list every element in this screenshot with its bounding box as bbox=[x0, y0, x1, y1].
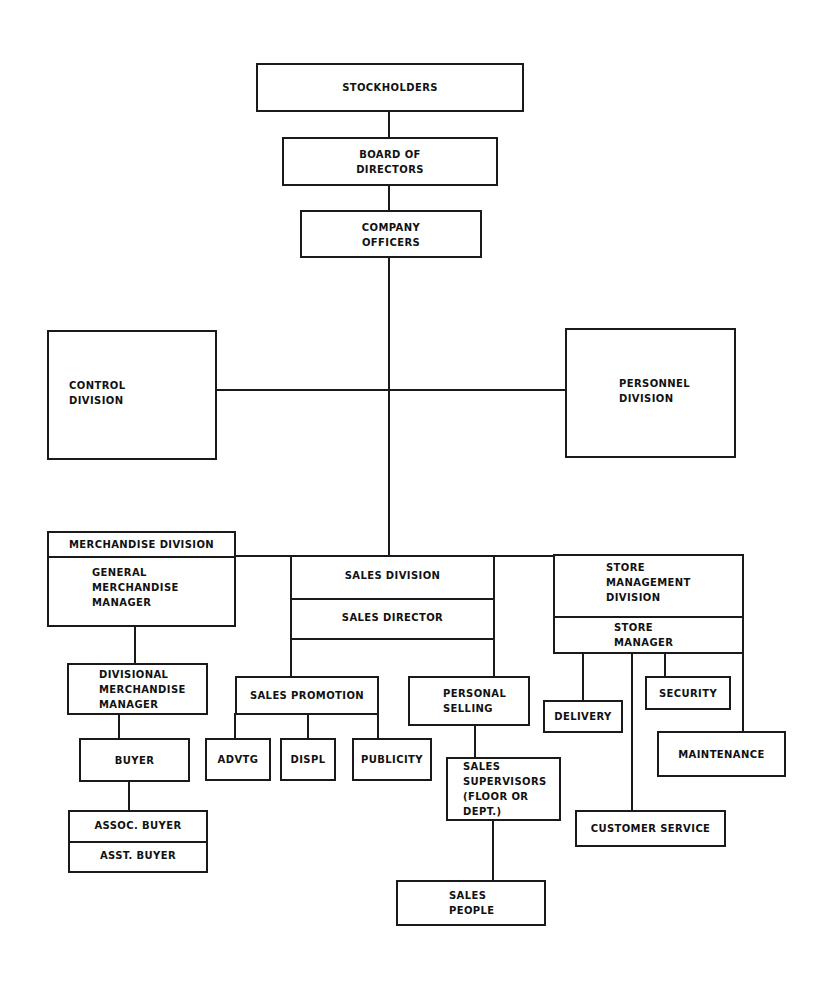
connector bbox=[388, 257, 390, 556]
node-buyer: BUYER bbox=[79, 738, 190, 782]
node-sales-people: SALES PEOPLE bbox=[396, 880, 546, 926]
node-label: MAINTENANCE bbox=[659, 747, 784, 762]
node-publicity: PUBLICITY bbox=[352, 738, 432, 781]
node-store-management-division: STORE MANAGEMENT DIVISION STORE MANAGER bbox=[553, 554, 744, 654]
connector bbox=[582, 652, 584, 701]
connector bbox=[290, 638, 292, 677]
connector bbox=[474, 724, 476, 758]
node-label: SALES SUPERVISORS (FLOOR OR DEPT.) bbox=[463, 759, 547, 819]
node-label: STOCKHOLDERS bbox=[258, 80, 522, 95]
connector bbox=[118, 714, 120, 739]
node-label: ADVTG bbox=[207, 752, 269, 767]
node-label: BOARD OF DIRECTORS bbox=[284, 147, 496, 177]
connector bbox=[388, 185, 390, 210]
node-sales-promotion: SALES PROMOTION bbox=[235, 676, 379, 715]
node-merchandise-division: MERCHANDISE DIVISION GENERAL MERCHANDISE… bbox=[47, 531, 236, 627]
node-label: SALES DIRECTOR bbox=[292, 610, 493, 625]
connector bbox=[216, 389, 566, 391]
node-label: SALES PROMOTION bbox=[237, 688, 377, 703]
node-security: SECURITY bbox=[645, 676, 731, 710]
node-label: SECURITY bbox=[647, 686, 729, 701]
node-control-division: CONTROL DIVISION bbox=[47, 330, 217, 460]
connector bbox=[742, 652, 744, 732]
node-label: SALES PEOPLE bbox=[449, 888, 495, 918]
node-label: MERCHANDISE DIVISION bbox=[69, 537, 214, 552]
node-label: COMPANY OFFICERS bbox=[302, 220, 480, 250]
divider bbox=[49, 556, 234, 558]
node-personal-selling: PERSONAL SELLING bbox=[408, 676, 530, 726]
divider bbox=[292, 598, 493, 600]
node-label: SALES DIVISION bbox=[292, 568, 493, 583]
node-label: DISPL bbox=[282, 752, 334, 767]
connector bbox=[234, 713, 236, 739]
node-label: STORE MANAGER bbox=[614, 620, 673, 650]
node-divisional-merchandise-manager: DIVISIONAL MERCHANDISE MANAGER bbox=[67, 663, 208, 715]
connector bbox=[631, 652, 633, 811]
connector bbox=[128, 781, 130, 811]
node-customer-service: CUSTOMER SERVICE bbox=[575, 810, 726, 847]
node-label: GENERAL MERCHANDISE MANAGER bbox=[92, 565, 179, 610]
node-sales-division: SALES DIVISION SALES DIRECTOR bbox=[290, 555, 495, 640]
node-label: CONTROL DIVISION bbox=[69, 378, 125, 408]
connector bbox=[664, 652, 666, 677]
connector bbox=[492, 820, 494, 881]
node-label: CUSTOMER SERVICE bbox=[577, 821, 724, 836]
node-sales-supervisors: SALES SUPERVISORS (FLOOR OR DEPT.) bbox=[446, 757, 561, 821]
divider bbox=[70, 841, 206, 843]
node-maintenance: MAINTENANCE bbox=[657, 731, 786, 777]
node-label: BUYER bbox=[81, 753, 188, 768]
connector bbox=[307, 713, 309, 739]
connector bbox=[493, 638, 495, 677]
node-stockholders: STOCKHOLDERS bbox=[256, 63, 524, 112]
node-label: STORE MANAGEMENT DIVISION bbox=[606, 560, 691, 605]
node-label: PERSONNEL DIVISION bbox=[619, 376, 690, 406]
node-assoc-asst-buyer: ASSOC. BUYER ASST. BUYER bbox=[68, 810, 208, 873]
node-label: ASSOC. BUYER bbox=[70, 818, 206, 833]
connector bbox=[377, 713, 379, 739]
connector bbox=[388, 111, 390, 137]
node-label: DIVISIONAL MERCHANDISE MANAGER bbox=[99, 667, 186, 712]
node-label: DELIVERY bbox=[545, 709, 621, 724]
node-personnel-division: PERSONNEL DIVISION bbox=[565, 328, 736, 458]
node-board-of-directors: BOARD OF DIRECTORS bbox=[282, 137, 498, 186]
node-label: PERSONAL SELLING bbox=[443, 686, 506, 716]
node-label: ASST. BUYER bbox=[70, 848, 206, 863]
node-advtg: ADVTG bbox=[205, 738, 271, 781]
node-displ: DISPL bbox=[280, 738, 336, 781]
connector bbox=[134, 626, 136, 664]
node-company-officers: COMPANY OFFICERS bbox=[300, 210, 482, 258]
node-label: PUBLICITY bbox=[354, 752, 430, 767]
node-delivery: DELIVERY bbox=[543, 700, 623, 733]
divider bbox=[555, 616, 742, 618]
